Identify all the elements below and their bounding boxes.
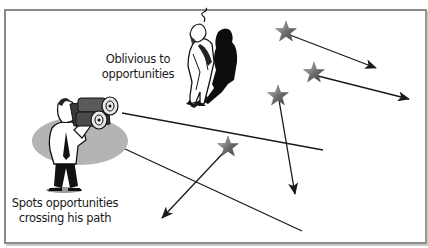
sight-line-lower [110,142,302,231]
star-icon [304,62,325,82]
arrow-4 [162,150,226,218]
star-icon [268,85,289,105]
spots-caption-line2: crossing his path [2,211,128,226]
oblivious-man-illustration [186,8,237,108]
opportunity-stars [218,21,325,156]
binocular-man-illustration [32,97,128,193]
arrow-1 [290,35,376,68]
thought-squiggle [202,8,207,22]
arrow-3 [279,100,295,194]
arrow-2 [318,76,409,99]
star-icon [276,21,297,41]
spots-caption-line1: Spots opportunities [2,196,128,211]
oblivious-caption: Oblivious to opportunities [96,52,180,82]
star-icon [218,136,239,156]
oblivious-caption-line2: opportunities [96,67,180,82]
spots-caption: Spots opportunities crossing his path [2,196,128,226]
oblivious-caption-line1: Oblivious to [96,52,180,67]
